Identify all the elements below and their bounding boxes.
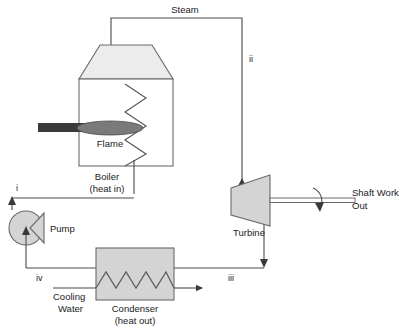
boiler-component — [79, 45, 173, 194]
feedwater-pipe — [8, 196, 134, 210]
shaft-bar — [270, 198, 355, 203]
burner-assembly — [38, 121, 143, 135]
shaft-work-label-line1: Shaft Work — [352, 187, 399, 198]
shaft-rotation-arrowhead — [315, 202, 324, 212]
exhaust-arrowhead — [260, 259, 268, 268]
cooling-water-label-line1: Cooling — [53, 291, 85, 302]
turbine-body[interactable] — [231, 175, 270, 226]
state-point-iii-label: iii — [228, 273, 234, 283]
state-point-ii-label: ii — [249, 54, 253, 64]
pump-label: Pump — [50, 223, 75, 234]
boiler-label-line2: (heat in) — [90, 183, 125, 194]
boiler-label-line1: Boiler — [95, 171, 119, 182]
pump-component[interactable] — [9, 211, 44, 268]
condenser-component — [96, 248, 174, 300]
turbine-shaft — [270, 188, 355, 212]
condenser-label-line1: Condenser — [112, 303, 158, 314]
diagram-canvas: Steam ii Flame Boiler (heat in) i Pump i… — [0, 0, 409, 333]
turbine-component[interactable] — [231, 175, 270, 226]
flame-icon — [77, 121, 143, 135]
condenser-label-line2: (heat out) — [115, 315, 156, 326]
steam-label: Steam — [171, 4, 199, 15]
turbine-label: Turbine — [233, 227, 265, 238]
cooling-water-label-line2: Water — [58, 303, 83, 314]
shaft-work-label-line2: Out — [352, 200, 368, 211]
state-point-iv-label: iv — [36, 273, 43, 283]
rankine-cycle-diagram: Steam ii Flame Boiler (heat in) i Pump i… — [0, 0, 409, 333]
feedwater-arrowhead — [8, 196, 16, 205]
boiler-hood — [79, 45, 173, 79]
flame-label: Flame — [97, 138, 123, 149]
state-point-i-label: i — [16, 183, 18, 193]
